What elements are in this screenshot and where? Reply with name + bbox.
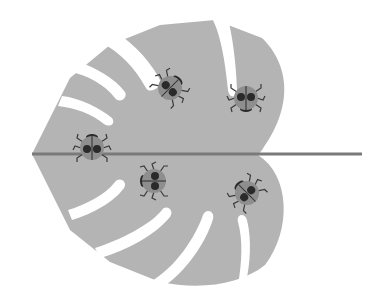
monstera-leaf [32, 15, 284, 288]
leaf-illustration: Monstera leaf with ladybugs [0, 0, 382, 301]
leaf-svg [0, 0, 382, 301]
